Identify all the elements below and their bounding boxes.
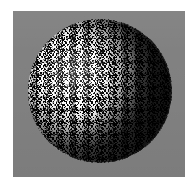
sphere-texture-light-speckles-secondary (28, 19, 172, 163)
sphere-texture-group (28, 19, 172, 163)
noise-textured-sphere (28, 19, 172, 163)
image-plate (13, 11, 185, 177)
figure-root (0, 0, 196, 182)
